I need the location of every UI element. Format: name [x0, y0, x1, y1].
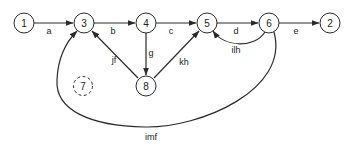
node-5: 5: [197, 13, 217, 33]
node-6-label: 6: [266, 18, 272, 29]
graph-svg: 1 3 4 5 6 2 8 7 a b: [0, 0, 356, 148]
edge-label-kh: kh: [179, 57, 189, 67]
node-7-dashed: 7: [74, 77, 93, 96]
node-6: 6: [259, 13, 279, 33]
node-3: 3: [74, 13, 94, 33]
node-7-label: 7: [80, 81, 86, 92]
edge-label-a: a: [46, 26, 51, 36]
node-2: 2: [320, 13, 340, 33]
node-1: 1: [14, 13, 34, 33]
edge-label-g: g: [148, 48, 153, 58]
node-1-label: 1: [21, 18, 27, 29]
edge-ilh: [213, 31, 265, 44]
edge-kh: [154, 31, 199, 78]
edge-label-d: d: [233, 26, 238, 36]
edge-label-e: e: [293, 26, 298, 36]
edge-label-jf: jf: [111, 55, 117, 65]
node-8-label: 8: [143, 81, 149, 92]
node-2-label: 2: [327, 18, 333, 29]
node-4: 4: [136, 13, 156, 33]
node-4-label: 4: [143, 18, 149, 29]
node-3-label: 3: [81, 18, 87, 29]
edge-label-c: c: [169, 26, 174, 36]
edge-label-b: b: [110, 26, 115, 36]
node-8: 8: [136, 76, 156, 96]
node-5-label: 5: [204, 18, 210, 29]
edge-label-imf: imf: [145, 132, 157, 142]
edge-label-ilh: ilh: [231, 45, 240, 55]
graph-diagram: 1 3 4 5 6 2 8 7 a b: [0, 0, 356, 148]
